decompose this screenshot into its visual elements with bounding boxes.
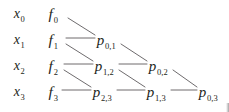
node-p12: p1,2 <box>95 59 113 74</box>
node-f0-base: f <box>49 5 54 22</box>
divided-difference-diagram: x0 x1 x2 x3 f0 f1 f2 f3 p0,1 p1,2 p2,3 p… <box>0 0 229 112</box>
node-f0-subscript: 0 <box>54 15 58 25</box>
node-p12-base: p <box>95 58 103 74</box>
node-x2-subscript: 2 <box>21 66 25 76</box>
node-x0: x0 <box>14 7 25 21</box>
node-p03: p0,3 <box>199 85 217 100</box>
node-p01: p0,1 <box>97 33 115 48</box>
node-p03-base: p <box>199 84 207 100</box>
node-p23-subscript: 2,3 <box>101 93 112 103</box>
node-p02-subscript: 0,2 <box>157 67 168 77</box>
edge-f0-p01 <box>68 18 95 35</box>
node-x3-base: x <box>14 84 20 99</box>
node-f3-base: f <box>49 83 54 100</box>
node-f1: f1 <box>49 32 58 48</box>
node-p13: p1,3 <box>147 85 165 100</box>
node-f2-subscript: 2 <box>54 67 58 77</box>
edge-layer <box>0 0 229 112</box>
node-x0-base: x <box>14 6 20 21</box>
node-x3: x3 <box>14 85 25 99</box>
node-f3-subscript: 3 <box>54 93 58 103</box>
node-f2-base: f <box>49 57 54 74</box>
node-x1: x1 <box>14 33 25 47</box>
node-p01-base: p <box>97 32 105 48</box>
node-x1-base: x <box>14 32 20 47</box>
node-x2-base: x <box>14 58 20 73</box>
node-p02: p0,2 <box>149 59 167 74</box>
edge-p02-p03 <box>173 70 197 87</box>
node-p23-base: p <box>93 84 101 100</box>
node-p13-base: p <box>147 84 155 100</box>
node-x1-subscript: 1 <box>21 40 25 50</box>
edge-p12-p13 <box>119 70 145 87</box>
node-p12-subscript: 1,2 <box>103 67 114 77</box>
scan-edge-artifact <box>226 103 229 112</box>
node-p13-subscript: 1,3 <box>155 93 166 103</box>
node-f1-base: f <box>49 31 54 48</box>
node-f1-subscript: 1 <box>54 41 58 51</box>
node-f2: f2 <box>49 58 58 74</box>
edge-f2-p23 <box>64 70 91 87</box>
node-x2: x2 <box>14 59 25 73</box>
edge-p01-p02 <box>121 44 147 61</box>
node-p02-base: p <box>149 58 157 74</box>
node-p03-subscript: 0,3 <box>207 93 218 103</box>
node-p23: p2,3 <box>93 85 111 100</box>
node-p01-subscript: 0,1 <box>105 41 116 51</box>
node-x3-subscript: 3 <box>21 92 25 102</box>
node-x0-subscript: 0 <box>21 14 25 24</box>
node-f0: f0 <box>49 6 58 22</box>
edge-f1-p12 <box>66 44 93 61</box>
node-f3: f3 <box>49 84 58 100</box>
